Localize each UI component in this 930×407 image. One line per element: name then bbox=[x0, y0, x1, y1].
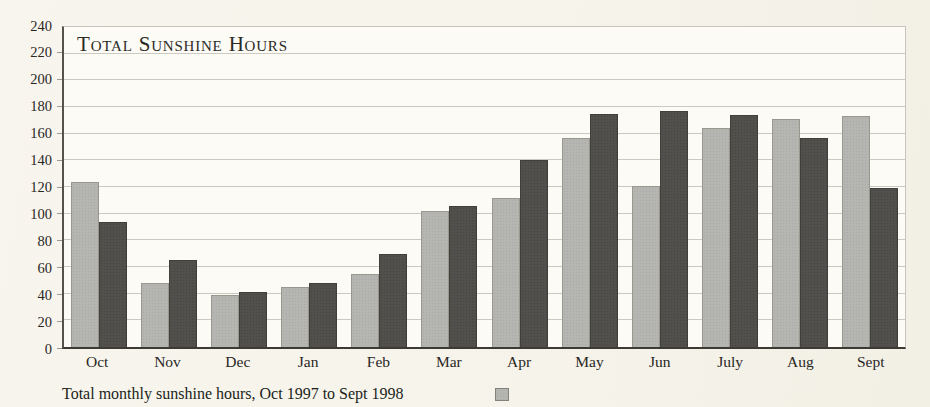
chart-title: Total Sunshine Hours bbox=[77, 32, 288, 57]
x-axis-label-apr: Apr bbox=[484, 353, 554, 371]
x-axis-label-may: May bbox=[554, 353, 624, 371]
y-axis-tick-label: 220 bbox=[30, 46, 52, 61]
x-axis-label-nov: Nov bbox=[132, 353, 202, 371]
y-axis-tick-label: 140 bbox=[30, 153, 52, 168]
x-axis-label-mar: Mar bbox=[414, 353, 484, 371]
bar-group-apr bbox=[484, 27, 554, 347]
bar-group-jun bbox=[625, 27, 695, 347]
bar-group-jan bbox=[274, 27, 344, 347]
bar-dark-feb bbox=[379, 254, 407, 347]
x-axis-label-aug: Aug bbox=[765, 353, 835, 371]
y-axis-tick-label: 240 bbox=[30, 19, 52, 34]
chart-caption: Total monthly sunshine hours, Oct 1997 t… bbox=[62, 385, 404, 403]
bar-light-feb bbox=[351, 274, 379, 347]
bar-light-aug bbox=[772, 119, 800, 347]
bar-light-may bbox=[562, 138, 590, 347]
y-axis-tick-label: 0 bbox=[45, 342, 52, 357]
x-axis-label-dec: Dec bbox=[203, 353, 273, 371]
bar-group-nov bbox=[134, 27, 204, 347]
y-axis-tick-label: 180 bbox=[30, 100, 52, 115]
x-axis-label-july: July bbox=[695, 353, 765, 371]
bar-group-oct bbox=[64, 27, 134, 347]
bar-light-jan bbox=[281, 287, 309, 347]
x-axis-label-feb: Feb bbox=[343, 353, 413, 371]
y-axis-tick-label: 40 bbox=[38, 288, 53, 303]
bar-dark-dec bbox=[239, 292, 267, 347]
x-axis-label-sept: Sept bbox=[836, 353, 906, 371]
bar-dark-jun bbox=[660, 111, 688, 347]
bar-group-july bbox=[695, 27, 765, 347]
bar-dark-july bbox=[730, 115, 758, 347]
bar-group-mar bbox=[414, 27, 484, 347]
bar-groups bbox=[64, 27, 905, 347]
bar-dark-nov bbox=[169, 260, 197, 347]
x-axis-label-jan: Jan bbox=[273, 353, 343, 371]
bar-dark-mar bbox=[449, 206, 477, 347]
y-axis-tick-label: 160 bbox=[30, 126, 52, 141]
bar-light-july bbox=[702, 128, 730, 347]
bar-dark-sept bbox=[870, 188, 898, 347]
bar-dark-aug bbox=[800, 138, 828, 347]
plot-area: Total Sunshine Hours bbox=[62, 26, 906, 349]
bar-group-may bbox=[555, 27, 625, 347]
y-axis-tick-label: 60 bbox=[38, 261, 53, 276]
bar-dark-may bbox=[590, 114, 618, 347]
bar-group-aug bbox=[765, 27, 835, 347]
bar-group-dec bbox=[204, 27, 274, 347]
x-axis-label-jun: Jun bbox=[625, 353, 695, 371]
bar-dark-oct bbox=[99, 222, 127, 347]
bar-group-sept bbox=[835, 27, 905, 347]
bar-light-sept bbox=[842, 116, 870, 347]
y-axis: 020406080100120140160180200220240 bbox=[0, 26, 62, 349]
y-axis-tick-label: 20 bbox=[38, 315, 53, 330]
bar-light-apr bbox=[492, 198, 520, 347]
bar-light-oct bbox=[71, 182, 99, 347]
scanned-chart-page: 020406080100120140160180200220240 Total … bbox=[0, 0, 930, 407]
y-axis-tick-label: 120 bbox=[30, 180, 52, 195]
bar-light-mar bbox=[421, 211, 449, 347]
bar-light-jun bbox=[632, 186, 660, 347]
bar-group-feb bbox=[344, 27, 414, 347]
bar-light-dec bbox=[211, 295, 239, 347]
bar-dark-apr bbox=[520, 160, 548, 347]
x-axis: OctNovDecJanFebMarAprMayJunJulyAugSept bbox=[62, 353, 906, 371]
y-axis-tick-label: 100 bbox=[30, 207, 52, 222]
bar-dark-jan bbox=[309, 283, 337, 347]
y-axis-tick-label: 80 bbox=[38, 234, 53, 249]
legend-swatch-light-series bbox=[495, 388, 509, 401]
x-axis-label-oct: Oct bbox=[62, 353, 132, 371]
bar-light-nov bbox=[141, 283, 169, 347]
y-axis-tick-label: 200 bbox=[30, 73, 52, 88]
